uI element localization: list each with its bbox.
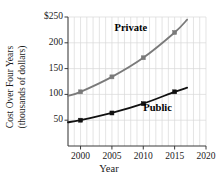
x-axis-tick-label: 2000 — [64, 151, 98, 161]
y-axis-title-line-2: (thousands of dollars) — [16, 26, 28, 148]
x-axis-tick-label: 2015 — [158, 151, 192, 161]
y-axis-tick-label: 100 — [49, 88, 63, 98]
x-axis-tick-label: 2020 — [189, 151, 218, 161]
y-axis-title: Cost Over Four Years (thousands of dolla… — [4, 26, 30, 148]
x-axis-tick-label: 2005 — [95, 151, 129, 161]
y-axis-tick-label: 200 — [49, 37, 63, 47]
y-axis-tick-label: $250 — [44, 11, 63, 21]
series-label-private: Private — [114, 22, 147, 33]
series-label-public: Public — [143, 102, 172, 113]
y-axis-tick-label: 50 — [54, 114, 64, 124]
vertical-gridlines — [68, 17, 206, 146]
x-axis-title: Year — [0, 163, 218, 174]
y-axis-tick-label: 150 — [49, 63, 63, 73]
x-axis-tick-label: 2010 — [126, 151, 160, 161]
chart-container: Cost Over Four Years (thousands of dolla… — [0, 0, 218, 183]
y-axis-title-line-1: Cost Over Four Years — [4, 26, 16, 148]
axis-ticks — [65, 17, 207, 150]
